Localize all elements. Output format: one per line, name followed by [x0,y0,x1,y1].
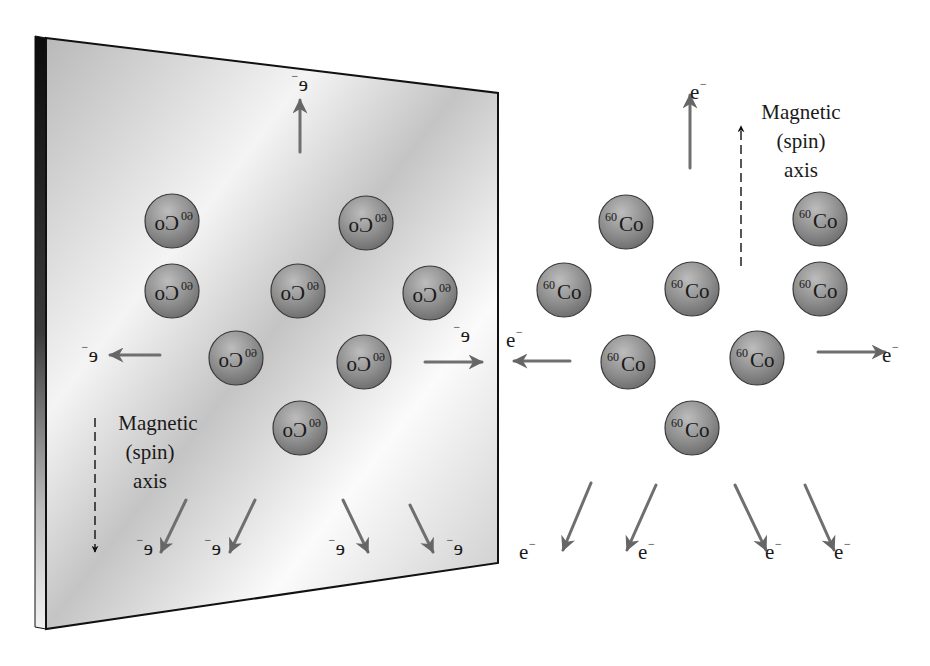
electron-label: e [461,323,470,347]
nucleus-mass-number: 60 [375,211,387,225]
electron-charge: − [700,77,707,91]
electron-charge: − [453,320,460,334]
nucleus-symbol: Co [813,279,838,303]
nucleus-symbol: Co [813,209,838,233]
electron-label: e [519,540,528,564]
electron-label: e [144,536,153,560]
electron-charge: − [291,69,298,83]
cobalt-nucleus: 60Co [273,401,327,455]
cobalt-nucleus: 60Co [665,401,719,455]
nucleus-mass-number: 60 [736,346,748,360]
mirror-axis-line2: (spin) [126,440,175,464]
nucleus-symbol: Co [685,418,710,442]
mirror-edge [35,36,46,629]
cobalt-nucleus: 60Co [145,264,199,318]
nucleus-symbol: Co [750,348,775,372]
electron-charge: − [844,537,851,551]
electron-label: e [506,328,515,352]
nucleus-mass-number: 60 [607,350,619,364]
nucleus-mass-number: 60 [439,281,451,295]
nucleus-symbol: Co [412,283,437,307]
electron-emission: e− [818,340,899,367]
nucleus-symbol: Co [557,280,582,304]
nucleus-mass-number: 60 [307,279,319,293]
electron-charge: − [204,533,211,547]
electron-charge: − [529,537,536,551]
cobalt-nucleus: 60Co [793,192,847,246]
electron-charge: − [516,325,523,339]
electron-label: e [454,536,463,560]
nucleus-mass-number: 60 [671,416,683,430]
nucleus-symbol: Co [218,348,243,372]
electron-label: e [882,343,891,367]
electron-label: e [336,536,345,560]
electron-charge: − [446,533,453,547]
nucleus-symbol: Co [619,212,644,236]
electron-emission: e− [805,485,851,564]
real-axis-line3: axis [784,158,818,182]
electron-charge: − [892,340,899,354]
diagram-canvas: e−e−e−e−e−e−e−60Co60Co60Co60Co60Co60Co60… [0,0,930,666]
cobalt-nucleus: 60Co [403,266,457,320]
electron-label: e [212,536,221,560]
electron-label: e [299,72,308,96]
cobalt-nucleus: 60Co [730,331,784,385]
nucleus-mass-number: 60 [799,207,811,221]
electron-label: e [89,343,98,367]
nucleus-symbol: Co [346,352,371,376]
electron-emission: e− [506,325,570,361]
real-experiment-group: e−e−e−e−e−e−e−60Co60Co60Co60Co60Co60Co60… [506,77,899,564]
nucleus-mass-number: 60 [671,277,683,291]
electron-arrow [563,483,591,550]
nucleus-symbol: Co [621,352,646,376]
real-axis-line2: (spin) [777,129,826,153]
electron-charge: − [136,533,143,547]
electron-label: e [834,540,843,564]
electron-emission: e− [627,485,656,564]
cobalt-nucleus: 60Co [337,335,391,389]
nucleus-symbol: Co [154,211,179,235]
nucleus-mass-number: 60 [245,346,257,360]
nucleus-symbol: Co [348,213,373,237]
electron-emission: e− [735,485,782,564]
cobalt-nucleus: 60Co [599,195,653,249]
electron-arrow [735,485,766,550]
electron-charge: − [775,537,782,551]
electron-charge: − [328,533,335,547]
electron-emission: e− [690,77,707,168]
electron-label: e [690,80,699,104]
cobalt-nucleus: 60Co [793,262,847,316]
electron-emission: e− [519,483,591,564]
electron-label: e [765,540,774,564]
cobalt-nucleus: 60Co [601,335,655,389]
cobalt-nucleus: 60Co [537,263,591,317]
cobalt-nucleus: 60Co [271,264,325,318]
cobalt-nucleus: 60Co [209,331,263,385]
electron-label: e [638,540,647,564]
mirror-axis-line1: Magnetic [118,411,197,435]
cobalt-nucleus: 60Co [339,196,393,250]
cobalt-nucleus: 60Co [145,194,199,248]
mirror-axis-line3: axis [133,469,167,493]
nucleus-mass-number: 60 [799,277,811,291]
nucleus-symbol: Co [282,418,307,442]
real-axis-line1: Magnetic [761,100,840,124]
nucleus-mass-number: 60 [543,278,555,292]
cobalt-60-parity-diagram: e−e−e−e−e−e−e−60Co60Co60Co60Co60Co60Co60… [0,0,930,666]
nucleus-symbol: Co [685,279,710,303]
nucleus-mass-number: 60 [373,350,385,364]
cobalt-nucleus: 60Co [665,262,719,316]
electron-charge: − [81,340,88,354]
nucleus-mass-number: 60 [181,279,193,293]
nucleus-mass-number: 60 [309,416,321,430]
electron-charge: − [648,537,655,551]
mirror-surface [46,38,498,629]
electron-arrow [805,485,834,550]
nucleus-mass-number: 60 [181,209,193,223]
nucleus-symbol: Co [154,281,179,305]
nucleus-symbol: Co [280,281,305,305]
nucleus-mass-number: 60 [605,210,617,224]
